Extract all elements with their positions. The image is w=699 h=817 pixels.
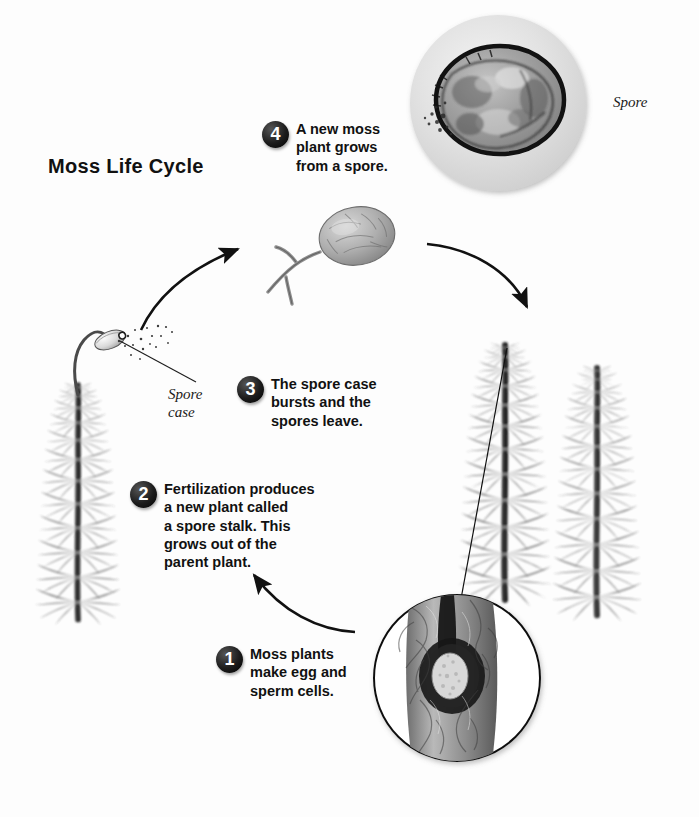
spore-label: Spore [613, 93, 647, 111]
step-3-badge: 3 [237, 376, 264, 403]
moss-life-cycle-diagram: Moss Life Cycle 4 A new moss plant grows… [0, 0, 699, 817]
arrow-germinating-spore-to-moss-plants [427, 244, 527, 307]
germinating-spore-protonema [268, 201, 399, 304]
moss-plant-with-spore-stalk [35, 325, 196, 626]
step-1-text: Moss plants make egg and sperm cells. [250, 645, 347, 700]
spore-case-label: Spore case [168, 385, 202, 421]
step-1: 1 Moss plants make egg and sperm cells. [216, 645, 347, 700]
step-2: 2 Fertilization produces a new plant cal… [130, 480, 315, 571]
spore-case [92, 326, 128, 354]
moss-plant-right-back [551, 366, 643, 622]
step-3: 3 The spore case bursts and the spores l… [237, 375, 377, 430]
step-1-badge: 1 [216, 646, 243, 673]
step-2-text: Fertilization produces a new plant calle… [164, 480, 315, 571]
step-2-badge: 2 [130, 481, 157, 508]
arrow-sporecase-to-germinating-spore [141, 249, 238, 330]
spore-micrograph-circle [410, 15, 586, 191]
egg-cell-inset-circle [374, 595, 540, 762]
step-4: 4 A new moss plant grows from a spore. [262, 120, 388, 175]
spore-case-leader-line [120, 341, 196, 382]
page-title: Moss Life Cycle [48, 155, 204, 178]
arrow-step1-to-step2 [254, 575, 355, 632]
step-4-text: A new moss plant grows from a spore. [296, 120, 388, 175]
step-3-text: The spore case bursts and the spores lea… [271, 375, 377, 430]
step-4-badge: 4 [262, 121, 289, 148]
moss-plant-right-front [458, 343, 553, 607]
